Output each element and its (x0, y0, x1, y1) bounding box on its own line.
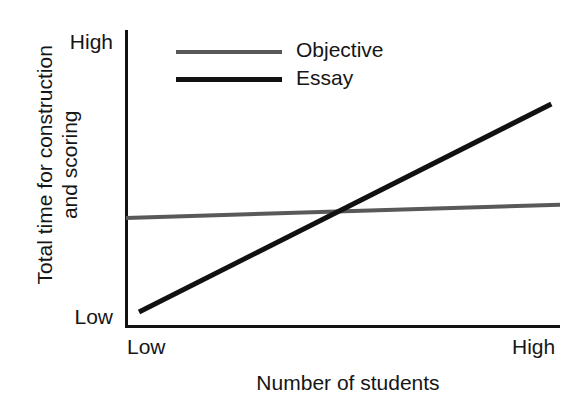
x-axis-title: Number of students (0, 372, 586, 393)
y-axis-title-line-2: and scoring (58, 15, 83, 315)
legend-item-essay: Essay (176, 66, 426, 94)
x-axis-high-label: High (512, 336, 555, 357)
legend-swatch-objective-icon (176, 50, 282, 54)
y-axis-title-line-1: Total time for construction (33, 15, 58, 315)
chart-container: High Low Low High Number of students Tot… (0, 0, 586, 409)
y-axis-title: Total time for construction and scoring (33, 15, 83, 315)
legend: Objective Essay (176, 38, 426, 94)
legend-item-objective: Objective (176, 38, 426, 66)
legend-label-objective: Objective (296, 38, 384, 62)
legend-label-essay: Essay (296, 66, 353, 90)
x-axis-low-label: Low (127, 336, 166, 357)
legend-swatch-essay-icon (176, 77, 282, 82)
